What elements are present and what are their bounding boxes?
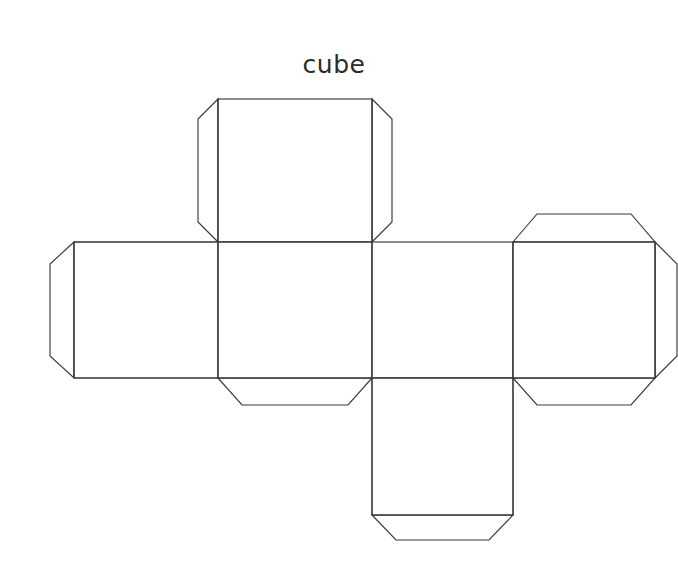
tab-back-face-bottom — [513, 378, 655, 405]
cube-net-diagram — [0, 0, 678, 577]
tab-bottom-face-bottom — [372, 515, 513, 540]
face-bottom — [372, 378, 513, 515]
face-top — [218, 99, 372, 242]
tab-top-face-left — [198, 99, 218, 242]
tab-left-face-left — [50, 242, 74, 378]
face-back — [513, 242, 655, 378]
cube-net-page: cube — [0, 0, 678, 577]
tab-front-face-bottom — [218, 378, 372, 405]
face-front — [218, 242, 372, 378]
tab-top-face-right — [372, 99, 392, 242]
face-left — [74, 242, 218, 378]
tab-back-face-right — [655, 242, 677, 378]
face-right — [372, 242, 513, 378]
tab-back-face-top — [513, 214, 655, 242]
